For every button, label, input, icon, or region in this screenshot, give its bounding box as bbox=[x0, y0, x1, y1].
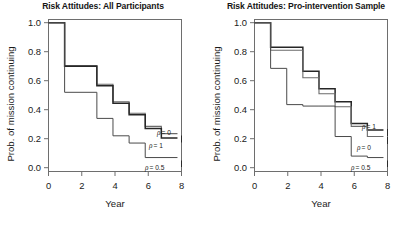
svg-text:= 1: = 1 bbox=[154, 142, 164, 149]
x-tick-label-2: 2 bbox=[79, 180, 84, 191]
y-axis-title-right: Prob. of mission continuing bbox=[211, 46, 222, 161]
x-tick-label-2: 2 bbox=[285, 180, 290, 191]
y-tick-label-0.2: 0.2 bbox=[28, 133, 41, 144]
curves-right bbox=[255, 23, 384, 158]
svg-text:ρ: ρ bbox=[350, 164, 355, 172]
svg-text:ρ: ρ bbox=[356, 144, 361, 152]
step-curve-1 bbox=[255, 23, 384, 130]
x-axis-title-right: Year bbox=[311, 198, 331, 209]
curve-label-group-right-rho0: ρ = 0 bbox=[356, 144, 371, 152]
svg-text:ρ: ρ bbox=[361, 123, 366, 131]
y-tick-marks-left bbox=[44, 23, 48, 168]
x-axis-title-left: Year bbox=[105, 198, 125, 209]
svg-text:= 0.5: = 0.5 bbox=[150, 164, 165, 171]
panel-all-participants: Risk Attitudes: All Participants Prob. o… bbox=[0, 0, 206, 226]
y-tick-label-1.0: 1.0 bbox=[28, 17, 41, 28]
y-tick-label-0.4: 0.4 bbox=[28, 104, 41, 115]
x-tick-label-8: 8 bbox=[385, 180, 390, 191]
y-tick-marks-right bbox=[250, 23, 254, 168]
x-tick-label-4: 4 bbox=[318, 180, 323, 191]
curve-label-group-right-rho1: ρ = 1 bbox=[361, 123, 376, 131]
svg-text:= 0: = 0 bbox=[362, 144, 372, 151]
plot-left: Prob. of mission continuing 1.0 0.8 0.6 … bbox=[0, 0, 206, 226]
y-tick-label-0.2: 0.2 bbox=[234, 133, 247, 144]
svg-text:ρ: ρ bbox=[148, 142, 153, 150]
svg-text:ρ: ρ bbox=[156, 129, 161, 137]
curves-left bbox=[49, 23, 178, 158]
x-tick-marks-left bbox=[49, 172, 182, 177]
y-axis-title-left: Prob. of mission continuing bbox=[5, 46, 16, 161]
step-curve-0 bbox=[49, 23, 178, 134]
x-tick-label-6: 6 bbox=[146, 180, 151, 191]
curve-label-group-left-rho05: ρ = 0.5 bbox=[144, 164, 165, 172]
x-tick-marks-right bbox=[255, 172, 388, 177]
svg-text:ρ: ρ bbox=[144, 164, 149, 172]
svg-text:= 1: = 1 bbox=[367, 123, 377, 130]
step-curve-0 bbox=[255, 23, 384, 137]
curve-label-group-left-rho1: ρ = 1 bbox=[148, 142, 163, 150]
figure-container: Risk Attitudes: All Participants Prob. o… bbox=[0, 0, 412, 226]
x-tick-label-0: 0 bbox=[46, 180, 51, 191]
y-tick-label-0.8: 0.8 bbox=[234, 46, 247, 57]
svg-text:= 0.5: = 0.5 bbox=[356, 164, 371, 171]
y-tick-label-0.0: 0.0 bbox=[28, 162, 41, 173]
y-tick-label-1.0: 1.0 bbox=[234, 17, 247, 28]
y-tick-label-0.6: 0.6 bbox=[28, 75, 41, 86]
x-tick-label-6: 6 bbox=[352, 180, 357, 191]
y-tick-label-0.4: 0.4 bbox=[234, 104, 247, 115]
x-tick-label-8: 8 bbox=[179, 180, 184, 191]
x-tick-label-0: 0 bbox=[252, 180, 257, 191]
panel-pro-intervention-sample: Risk Attitudes: Pro-intervention Sample … bbox=[206, 0, 412, 226]
y-tick-label-0.0: 0.0 bbox=[234, 162, 247, 173]
plot-right: Prob. of mission continuing 1.0 0.8 0.6 … bbox=[206, 0, 412, 226]
x-tick-label-4: 4 bbox=[112, 180, 117, 191]
y-tick-label-0.8: 0.8 bbox=[28, 46, 41, 57]
y-tick-label-0.6: 0.6 bbox=[234, 75, 247, 86]
curve-label-group-left-rho0: ρ = 0 bbox=[156, 129, 171, 137]
svg-text:= 0: = 0 bbox=[162, 129, 172, 136]
curve-label-group-right-rho05: ρ = 0.5 bbox=[350, 164, 371, 172]
